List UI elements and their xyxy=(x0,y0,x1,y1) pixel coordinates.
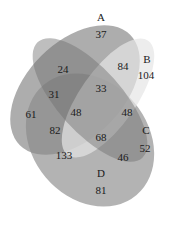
region-c-only: 52 xyxy=(140,143,151,154)
region-b-c: 48 xyxy=(122,107,133,118)
region-b-d: 133 xyxy=(56,150,73,161)
region-b-only: 104 xyxy=(138,70,155,81)
set-label-a: A xyxy=(97,12,105,23)
region-b-c-d: 68 xyxy=(96,132,107,143)
region-a-c-d-b: 82 xyxy=(50,125,61,136)
region-a-b: 84 xyxy=(118,61,129,72)
region-a-b-c-d: 48 xyxy=(71,107,82,118)
region-a-d: 61 xyxy=(26,109,37,120)
region-a-only: 37 xyxy=(96,29,107,40)
region-c-d: 46 xyxy=(118,152,129,163)
region-a-c-d: 31 xyxy=(49,89,60,100)
region-a-c: 24 xyxy=(58,64,69,75)
region-a-b-c: 33 xyxy=(96,83,107,94)
set-label-b: B xyxy=(143,54,150,65)
set-label-c: C xyxy=(142,125,149,136)
region-d-only: 81 xyxy=(96,185,107,196)
set-label-d: D xyxy=(97,168,105,179)
